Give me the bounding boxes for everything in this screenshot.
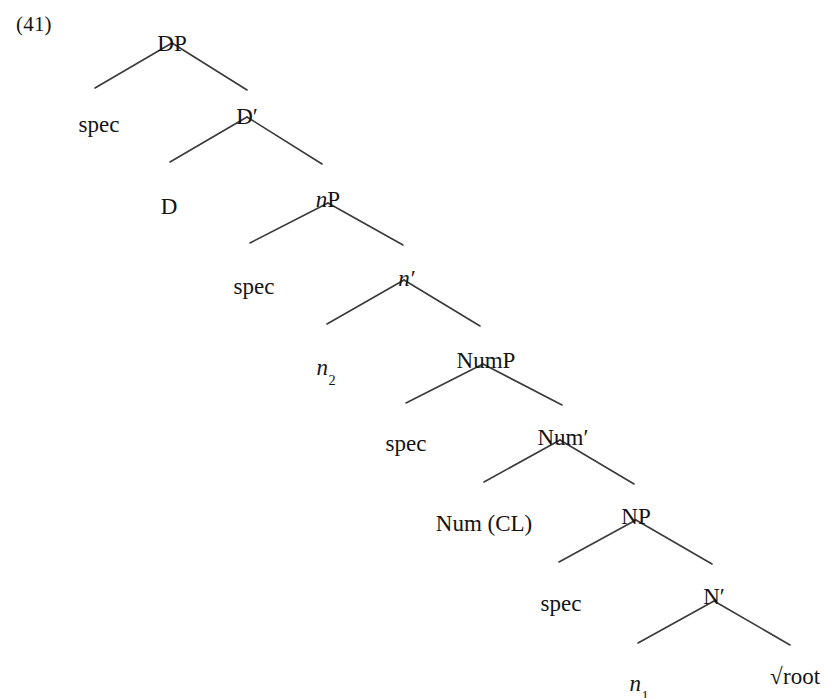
node-little-n-p-label: nP (316, 187, 340, 212)
node-root-label: √root (770, 664, 820, 689)
node-n2-label: n2 (316, 355, 335, 380)
node-spec-np-little: spec (234, 275, 275, 298)
node-spec-nump: spec (386, 432, 427, 455)
node-spec-dp: spec (79, 113, 120, 136)
node-num-cl-label: Num (CL) (436, 511, 532, 536)
node-np: NP (621, 505, 650, 528)
branch-line (327, 280, 404, 324)
node-dp-label: DP (157, 31, 186, 56)
node-nump-label: NumP (457, 348, 516, 373)
node-np-label: NP (621, 504, 650, 529)
node-little-n-p: nP (316, 188, 340, 211)
node-n1-label: n1 (629, 671, 648, 696)
node-dp: DP (157, 32, 186, 55)
branch-line (247, 117, 322, 164)
node-nump: NumP (457, 349, 516, 372)
branch-line (714, 601, 790, 645)
node-n-bar: N′ (703, 585, 725, 608)
node-num-cl: Num (CL) (436, 512, 532, 535)
node-root: √root (770, 665, 820, 688)
node-n-bar-label: N′ (703, 584, 725, 609)
example-number: (41) (16, 14, 52, 35)
node-n2: n2 (316, 356, 335, 379)
node-spec-nump-label: spec (386, 431, 427, 456)
node-num-bar-label: Num′ (537, 425, 588, 450)
node-spec-dp-label: spec (79, 112, 120, 137)
node-d-label: D (161, 194, 178, 219)
syntax-tree-figure: (41) DP spec D′ D nP spec n′ n2 NumP spe… (0, 0, 840, 698)
node-n1: n1 (629, 672, 648, 695)
node-little-n-bar: n′ (398, 267, 416, 290)
node-spec-np: spec (541, 592, 582, 615)
node-d-bar: D′ (236, 105, 258, 128)
node-num-bar: Num′ (537, 426, 588, 449)
node-d: D (161, 195, 178, 218)
node-little-n-bar-label: n′ (398, 266, 416, 291)
node-d-bar-label: D′ (236, 104, 258, 129)
node-spec-np-label: spec (541, 591, 582, 616)
node-spec-np-little-label: spec (234, 274, 275, 299)
